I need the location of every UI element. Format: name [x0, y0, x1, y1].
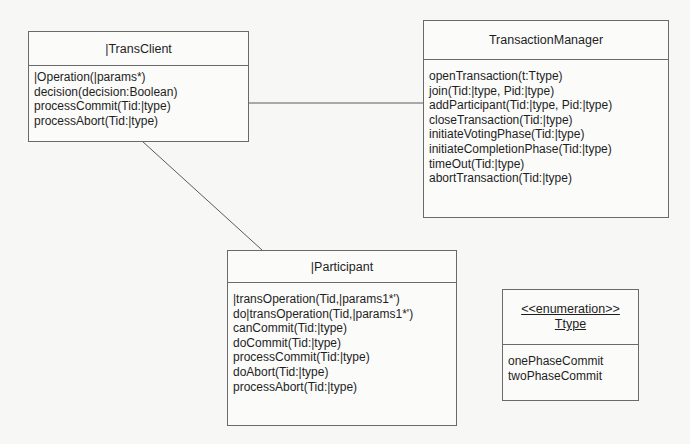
operation: initiateVotingPhase(Tid:|type): [429, 127, 668, 142]
operation: doCommit(Tid:|type): [233, 336, 456, 351]
enum-literal: onePhaseCommit: [508, 354, 638, 369]
operation: doAbort(Tid:|type): [233, 365, 456, 380]
class-name: |TransClient: [105, 42, 172, 56]
enumeration-ttype[interactable]: <<enumeration>> Ttype onePhaseCommit two…: [502, 289, 639, 401]
operation: processAbort(Tid:|type): [34, 114, 248, 129]
class-name-header: |TransClient: [29, 32, 248, 66]
class-name-header: |Participant: [228, 251, 456, 283]
class-transclient[interactable]: |TransClient |Operation(|params*) decisi…: [28, 31, 249, 142]
operation: openTransaction(t:Ttype): [429, 69, 668, 84]
operation: canCommit(Tid:|type): [233, 321, 456, 336]
class-participant[interactable]: |Participant |transOperation(Tid,|params…: [227, 250, 457, 426]
operation: abortTransaction(Tid:|type): [429, 171, 668, 186]
operations-compartment: |Operation(|params*) decision(decision:B…: [29, 66, 248, 128]
class-name: |Participant: [311, 260, 373, 274]
literals-compartment: onePhaseCommit twoPhaseCommit: [503, 345, 638, 383]
operations-compartment: openTransaction(t:Ttype) join(Tid:|type,…: [424, 60, 668, 186]
operation: initiateCompletionPhase(Tid:|type): [429, 142, 668, 157]
stereotype-label: <<enumeration>>: [521, 302, 620, 317]
operations-compartment: |transOperation(Tid,|params1*') do|trans…: [228, 283, 456, 394]
enumeration-name: Ttype: [555, 317, 586, 332]
operation: closeTransaction(Tid:|type): [429, 113, 668, 128]
operation: do|transOperation(Tid,|params1*'): [233, 307, 456, 322]
enum-literal: twoPhaseCommit: [508, 369, 638, 384]
operation: |transOperation(Tid,|params1*'): [233, 292, 456, 307]
class-name: TransactionManager: [489, 33, 603, 47]
operation: join(Tid:|type, Pid:|type): [429, 84, 668, 99]
association-transclient-participant: [142, 141, 262, 250]
operation: processCommit(Tid:|type): [233, 350, 456, 365]
operation: |Operation(|params*): [34, 70, 248, 85]
enumeration-header: <<enumeration>> Ttype: [503, 290, 638, 345]
operation: processCommit(Tid:|type): [34, 99, 248, 114]
class-transactionmanager[interactable]: TransactionManager openTransaction(t:Tty…: [423, 20, 669, 218]
operation: decision(decision:Boolean): [34, 85, 248, 100]
class-name-header: TransactionManager: [424, 21, 668, 60]
operation: processAbort(Tid:|type): [233, 380, 456, 395]
operation: addParticipant(Tid:|type, Pid:|type): [429, 98, 668, 113]
operation: timeOut(Tid:|type): [429, 157, 668, 172]
